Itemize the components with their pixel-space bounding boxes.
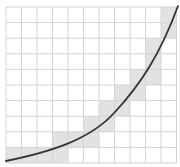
curve-grid-diagram bbox=[0, 0, 180, 167]
shaded-cell bbox=[84, 116, 100, 132]
shaded-cell bbox=[146, 69, 162, 85]
diagram-canvas bbox=[0, 0, 180, 167]
shaded-cell bbox=[53, 147, 69, 163]
